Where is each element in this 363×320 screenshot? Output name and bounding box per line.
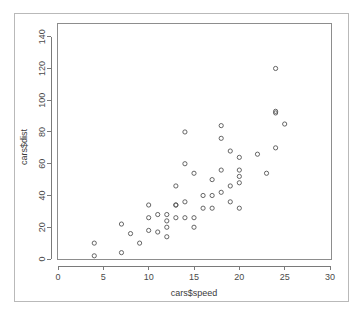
y-tick-label: 40	[37, 190, 47, 200]
data-point	[192, 225, 196, 229]
x-tick-label: 15	[189, 272, 199, 282]
data-point	[174, 203, 178, 207]
y-axis: 020406080100120140	[37, 29, 51, 261]
data-point	[192, 171, 196, 175]
data-point	[147, 203, 151, 207]
data-point	[274, 146, 278, 150]
x-tick-label: 20	[234, 272, 244, 282]
data-point	[237, 181, 241, 185]
data-point	[165, 225, 169, 229]
data-point	[228, 149, 232, 153]
data-point	[192, 216, 196, 220]
data-points	[92, 66, 287, 258]
y-tick-label: 80	[37, 127, 47, 137]
y-tick-label: 140	[37, 29, 47, 44]
data-point	[156, 212, 160, 216]
x-tick-label: 0	[55, 272, 60, 282]
data-point	[264, 171, 268, 175]
x-tick-label: 10	[144, 272, 154, 282]
data-point	[237, 206, 241, 210]
data-point	[201, 193, 205, 197]
y-tick-label: 100	[37, 93, 47, 108]
data-point	[183, 162, 187, 166]
x-axis-title: cars$speed	[171, 288, 218, 298]
data-point	[237, 168, 241, 172]
data-point	[183, 200, 187, 204]
data-point	[174, 216, 178, 220]
y-tick-label: 20	[37, 222, 47, 232]
data-point	[165, 235, 169, 239]
data-point	[274, 66, 278, 70]
data-point	[156, 230, 160, 234]
data-point	[228, 184, 232, 188]
data-point	[92, 241, 96, 245]
y-axis-title: cars$dist	[19, 128, 29, 165]
x-axis: 051015202530	[55, 266, 335, 282]
x-tick-label: 30	[325, 272, 335, 282]
data-point	[147, 216, 151, 220]
data-point	[237, 155, 241, 159]
data-point	[219, 136, 223, 140]
y-tick-label: 60	[37, 159, 47, 169]
data-point	[283, 122, 287, 126]
y-tick-label: 120	[37, 61, 47, 76]
data-point	[165, 212, 169, 216]
data-point	[210, 206, 214, 210]
data-point	[219, 168, 223, 172]
data-point	[147, 228, 151, 232]
plot-box	[58, 24, 332, 260]
data-point	[201, 206, 205, 210]
data-point	[255, 152, 259, 156]
data-point	[183, 130, 187, 134]
data-point	[119, 222, 123, 226]
x-tick-label: 25	[280, 272, 290, 282]
data-point	[183, 216, 187, 220]
scatter-plot-figure: 051015202530 020406080100120140 cars$spe…	[0, 0, 363, 320]
data-point	[165, 219, 169, 223]
data-point	[237, 174, 241, 178]
data-point	[138, 241, 142, 245]
plot-canvas: 051015202530 020406080100120140 cars$spe…	[0, 0, 363, 320]
y-tick-label: 0	[37, 256, 47, 261]
data-point	[219, 124, 223, 128]
data-point	[219, 190, 223, 194]
data-point	[174, 184, 178, 188]
data-point	[210, 178, 214, 182]
x-tick-label: 5	[101, 272, 106, 282]
data-point	[119, 251, 123, 255]
data-point	[128, 231, 132, 235]
data-point	[92, 254, 96, 258]
data-point	[228, 200, 232, 204]
data-point	[210, 193, 214, 197]
